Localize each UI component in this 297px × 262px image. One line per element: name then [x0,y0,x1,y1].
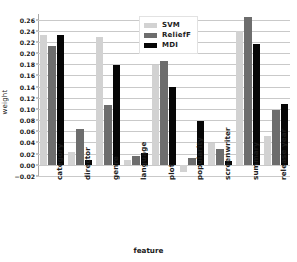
y-tick-label: 0.12 [20,94,35,101]
y-tick-label: 0.00 [20,161,35,168]
bar-relieff-plot [160,61,168,164]
x-tick-label-screenwriter: screenwriter [223,127,232,180]
x-tick-label-popularity: popularity [195,137,204,180]
y-tick-label: 0.22 [20,38,35,45]
y-tick-label: 0.24 [20,27,35,34]
bar-svm-category [40,35,48,165]
x-axis-label: feature [0,246,297,255]
legend-label: SVM [162,21,180,29]
legend-label: MDI [162,41,178,49]
bar-mdi-genre [113,65,121,164]
x-tick-label-release-year: release year [279,129,288,180]
y-axis-label: weight [1,72,9,132]
x-tick-label-plot: plot [167,164,176,180]
bar-svm-release-year [264,136,272,165]
x-tick-label-director: director [83,147,92,180]
y-tick-label: 0.20 [20,50,35,57]
y-tick-label: 0.26 [20,16,35,23]
legend-label: ReliefF [162,31,191,39]
legend-swatch-icon [144,33,157,38]
bar-svm-popularity [180,165,188,172]
bar-chart-figure: weight −0.020.000.020.040.060.080.100.12… [0,0,297,262]
bar-svm-genre [96,37,104,164]
y-tick-label: 0.14 [20,83,35,90]
y-tick-label: 0.04 [20,139,35,146]
y-tick-label: 0.10 [20,105,35,112]
bar-svm-screenwriter [208,143,216,165]
legend-swatch-icon [144,23,157,28]
bar-svm-summary [236,31,244,165]
bar-svm-plot [152,65,160,165]
x-tick-label-summary: summary [251,142,260,180]
legend-item-svm[interactable]: SVM [144,20,191,30]
y-tick-label: 0.06 [20,128,35,135]
x-tick-label-genre: genre [111,156,120,180]
bar-svm-language [124,160,132,165]
bar-svm-director [68,152,76,165]
bar-mdi-plot [169,87,177,165]
legend-item-relieff[interactable]: ReliefF [144,30,191,40]
x-tick-label-category: category [55,143,64,180]
legend-item-mdi[interactable]: MDI [144,40,191,50]
y-tick-label: 0.18 [20,61,35,68]
y-tick-label: 0.16 [20,72,35,79]
bar-group [94,14,122,176]
y-tick-label: 0.08 [20,117,35,124]
legend: SVMReliefFMDI [139,16,198,54]
y-tick-label: 0.02 [20,150,35,157]
legend-swatch-icon [144,43,157,48]
y-tick-label: −0.02 [15,173,35,180]
x-tick-label-language: language [139,142,148,180]
